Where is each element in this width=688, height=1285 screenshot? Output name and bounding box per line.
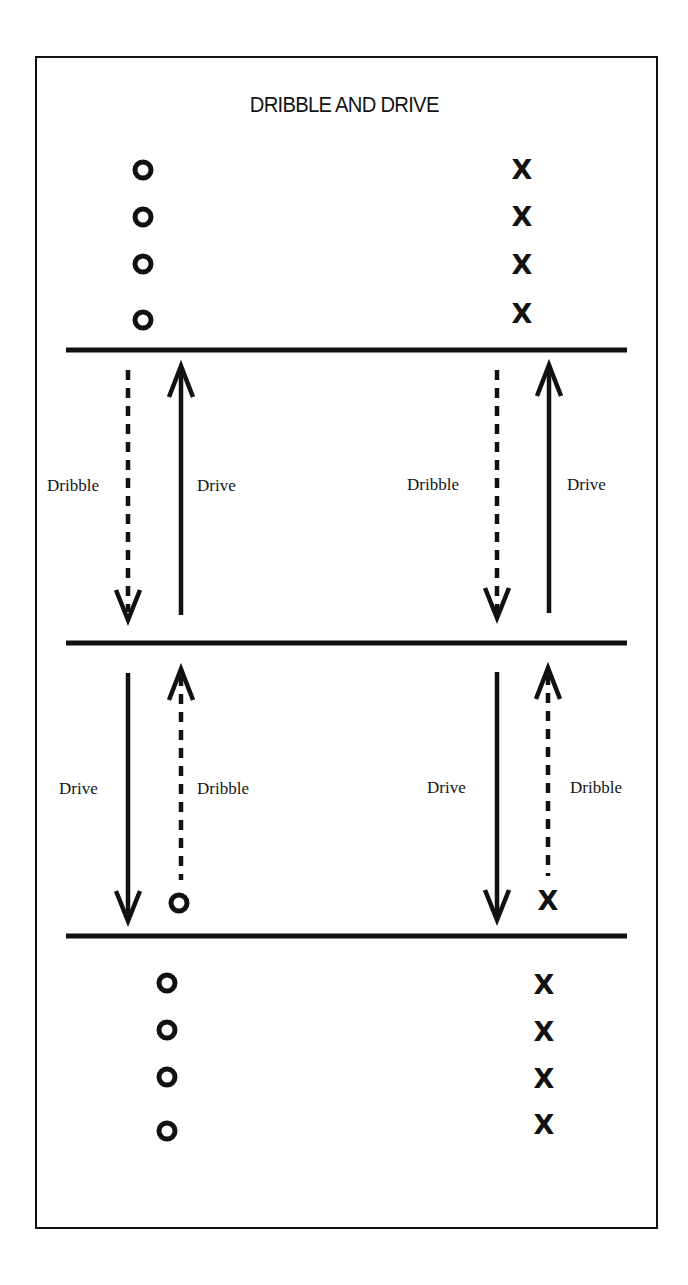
o-player-icon — [159, 1123, 175, 1139]
lower-right-drive-arrow — [485, 672, 509, 920]
diagram-canvas: DRIBBLE AND DRIVE X X X X X X X X X Drib… — [0, 0, 688, 1285]
lower-left-drive-arrow — [116, 673, 140, 921]
label-drive: Drive — [59, 779, 98, 799]
o-player-icon — [135, 312, 151, 328]
x-player-icon: X — [507, 300, 537, 327]
x-player-icon: X — [507, 203, 537, 230]
o-player-icon — [135, 256, 151, 272]
o-player-icon — [135, 209, 151, 225]
label-dribble: Dribble — [407, 475, 459, 495]
lower-left-dribble-arrow — [169, 669, 193, 880]
o-player-icon — [159, 1069, 175, 1085]
x-player-icon: X — [529, 1018, 559, 1045]
label-drive: Drive — [427, 778, 466, 798]
upper-right-dribble-arrow — [485, 370, 509, 618]
diagram-graphics — [0, 0, 688, 1285]
label-dribble: Dribble — [47, 476, 99, 496]
x-player-active-icon: X — [533, 887, 563, 914]
label-drive: Drive — [567, 475, 606, 495]
bottom-o-players — [159, 895, 187, 1139]
lower-right-dribble-arrow — [536, 668, 560, 876]
o-player-icon — [135, 162, 151, 178]
x-player-icon: X — [529, 971, 559, 998]
o-player-icon — [159, 1022, 175, 1038]
x-player-icon: X — [507, 251, 537, 278]
x-player-icon: X — [529, 1065, 559, 1092]
x-player-icon: X — [529, 1111, 559, 1138]
o-player-icon — [159, 975, 175, 991]
diagram-title: DRIBBLE AND DRIVE — [28, 92, 661, 118]
label-drive: Drive — [197, 476, 236, 496]
x-player-icon: X — [507, 156, 537, 183]
upper-left-drive-arrow — [169, 366, 193, 615]
top-o-players — [135, 162, 151, 328]
label-dribble: Dribble — [570, 778, 622, 798]
upper-left-dribble-arrow — [116, 370, 140, 620]
upper-right-drive-arrow — [537, 365, 561, 613]
o-player-active-icon — [171, 895, 187, 911]
label-dribble: Dribble — [197, 779, 249, 799]
